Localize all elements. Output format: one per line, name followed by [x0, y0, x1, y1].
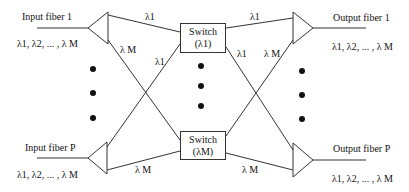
demux-1-icon [88, 12, 108, 44]
switch-wavelength: (λM) [181, 146, 225, 158]
switch-wavelength: (λ1) [181, 38, 225, 50]
link-inP-sw1 [107, 44, 180, 147]
mux-1-icon [293, 12, 313, 44]
ellipsis-dot-icon [299, 68, 305, 74]
edge-label-swM-outP: λ M [242, 165, 258, 175]
link-in1-sw1 [108, 15, 180, 32]
switch-label: Switch [181, 134, 225, 146]
output-fiber-1-label: Output fiber 1 [333, 13, 390, 23]
switch-lambda-m: Switch (λM) [180, 131, 226, 160]
input-fiber-1-wavelengths: λ1, λ2, ... , λ M [17, 39, 78, 49]
edge-label-inP-swM: λ M [135, 165, 151, 175]
edge-label-in1-sw1: λ1 [145, 12, 155, 22]
switch-lambda-1: Switch (λ1) [180, 23, 226, 53]
link-swM-outP [226, 153, 293, 170]
ellipsis-dot-icon [90, 115, 96, 121]
edge-label-inP-sw1: λ1 [155, 57, 165, 67]
switch-label: Switch [181, 26, 225, 38]
ellipsis-dot-icon [299, 92, 305, 98]
ellipsis-dot-icon [299, 116, 305, 122]
edge-label-sw1-out1: λ1 [250, 12, 260, 22]
demux-p-icon [88, 142, 107, 174]
output-fiber-p-wavelengths: λ1, λ2, ... , λ M [332, 174, 393, 184]
mux-p-icon [293, 143, 313, 177]
input-fiber-p-wavelengths: λ1, λ2, ... , λ M [17, 170, 78, 180]
ellipsis-dot-icon [90, 66, 96, 72]
link-sw1-outP [226, 47, 293, 150]
input-fiber-p-label: Input fiber P [25, 143, 76, 153]
output-fiber-p-label: Output fiber P [333, 144, 390, 154]
input-fiber-1-label: Input fiber 1 [22, 12, 72, 22]
link-in1-swM [108, 40, 180, 140]
edge-label-swM-out1: λ M [264, 49, 280, 59]
edge-label-sw1-outP: λ1 [237, 49, 247, 59]
output-fiber-1-wavelengths: λ1, λ2, ... , λ M [332, 42, 393, 52]
ellipsis-dot-icon [198, 103, 204, 109]
ellipsis-dot-icon [198, 63, 204, 69]
ellipsis-dot-icon [90, 90, 96, 96]
edge-label-in1-swM: λ M [120, 45, 136, 55]
ellipsis-dot-icon [198, 83, 204, 89]
